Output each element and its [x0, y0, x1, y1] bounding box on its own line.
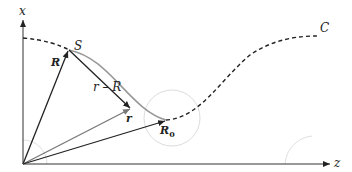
- x-axis-label: x: [19, 4, 26, 18]
- diagram-canvas: x z C S R r – R r R0: [0, 0, 352, 172]
- label-R0-sub: 0: [169, 129, 175, 139]
- z-axis-label: z: [333, 156, 341, 170]
- vector-R: [23, 51, 68, 164]
- curve-label-c: C: [320, 21, 329, 35]
- label-S: S: [74, 39, 82, 53]
- label-R0: R0: [159, 124, 175, 139]
- vector-r-minus-R: [69, 50, 130, 108]
- label-R: R: [50, 56, 60, 69]
- label-r: r: [126, 112, 133, 125]
- angle-arc-z: [285, 136, 312, 164]
- label-R0-base: R: [159, 124, 169, 137]
- label-r-minus-R: r – R: [93, 80, 121, 94]
- curve-c: [23, 36, 318, 120]
